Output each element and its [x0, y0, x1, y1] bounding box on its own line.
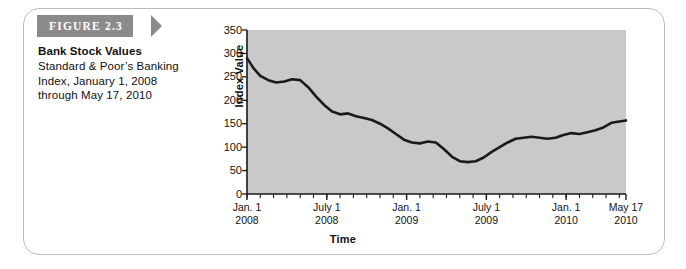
y-tick-label: 50	[202, 165, 242, 176]
y-tick-label: 150	[202, 118, 242, 129]
x-tick-label-line2: 2010	[609, 214, 643, 227]
x-tick-label-line2: 2010	[552, 214, 581, 227]
y-axis-title: Index Value	[233, 36, 245, 116]
x-tick-label-line2: 2009	[473, 214, 500, 227]
x-tick-label-line1: July 1	[473, 201, 500, 214]
x-tick-label: Jan. 12010	[552, 201, 581, 226]
caption-title: Bank Stock Values	[38, 44, 213, 58]
x-tick-label: Jan. 12009	[392, 201, 421, 226]
figure-number-banner: FIGURE 2.3	[37, 15, 133, 37]
y-tick-label: 0	[202, 189, 242, 200]
x-axis-title: Time	[0, 233, 686, 245]
figure-caption: Bank Stock Values S&P Banking Index Stan…	[38, 44, 213, 103]
x-tick-label: July 12008	[313, 201, 340, 226]
x-tick-label-line1: May 17	[609, 201, 643, 214]
caption-description-line-1: Standard & Poor’s Banking	[38, 59, 213, 74]
x-tick-label-line2: 2008	[233, 214, 262, 227]
figure-container: FIGURE 2.3 Bank Stock Values S&P Banking…	[0, 0, 686, 269]
x-tick-label-line2: 2008	[313, 214, 340, 227]
y-tick-label: 100	[202, 142, 242, 153]
x-tick-label-line1: Jan. 1	[552, 201, 581, 214]
y-tick-label: 350	[202, 25, 242, 36]
x-tick-label-line1: Jan. 1	[233, 201, 262, 214]
x-tick-label: July 12009	[473, 201, 500, 226]
x-tick-label-line1: Jan. 1	[392, 201, 421, 214]
caption-description-line-2: Index, January 1, 2008	[38, 74, 213, 89]
x-tick-label-line1: July 1	[313, 201, 340, 214]
x-tick-label: Jan. 12008	[233, 201, 262, 226]
caption-description-line-3: through May 17, 2010	[38, 88, 213, 103]
x-tick-label-line2: 2009	[392, 214, 421, 227]
figure-number-label: FIGURE 2.3	[49, 20, 123, 32]
x-tick-label: May 172010	[609, 201, 643, 226]
banner-arrow-icon	[151, 15, 162, 37]
